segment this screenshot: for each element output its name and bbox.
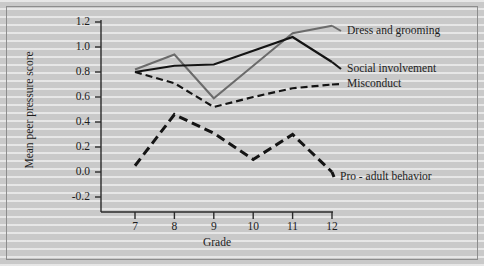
series-lines-group	[135, 26, 332, 172]
series-label-1: Social involvement	[347, 63, 436, 75]
y-axis-title: Mean peer pressure score	[23, 35, 35, 185]
y-axis-tick-label: 0.2	[52, 141, 90, 153]
y-axis-tick-label: 0.6	[52, 91, 90, 103]
x-axis-tick-label: 11	[278, 221, 308, 233]
series-label-3: Pro - adult behavior	[340, 171, 432, 183]
series-leader-1	[332, 62, 341, 69]
y-axis-tick-label: 0.8	[52, 66, 90, 78]
x-axis-title: Grade	[0, 237, 434, 249]
x-axis-tick-label: 9	[199, 221, 229, 233]
y-axis-tick-label: 1.0	[52, 41, 90, 53]
series-leader-0	[332, 26, 341, 31]
y-axis-tick-label: 1.2	[52, 16, 90, 28]
y-axis-tick-label: -0.2	[52, 191, 90, 203]
x-axis-tick-label: 7	[120, 221, 150, 233]
y-axis-tick-label: 0.4	[52, 116, 90, 128]
figure-page: -0.20.00.20.40.60.81.01.2 789101112 Mean…	[0, 0, 484, 266]
y-axis-ticks	[95, 22, 101, 197]
series-line-1	[135, 37, 332, 72]
series-leader-2	[332, 84, 341, 85]
series-line-2	[135, 72, 332, 107]
y-axis-tick-label: 0.0	[52, 166, 90, 178]
series-label-2: Misconduct	[347, 78, 401, 90]
series-leader-lines	[332, 26, 341, 177]
x-axis-ticks	[135, 212, 332, 219]
series-leader-3	[332, 172, 334, 177]
x-axis-tick-label: 10	[238, 221, 268, 233]
series-line-3	[135, 115, 332, 173]
series-label-0: Dress and grooming	[347, 25, 440, 37]
x-axis-tick-label: 12	[317, 221, 347, 233]
x-axis-tick-label: 8	[159, 221, 189, 233]
